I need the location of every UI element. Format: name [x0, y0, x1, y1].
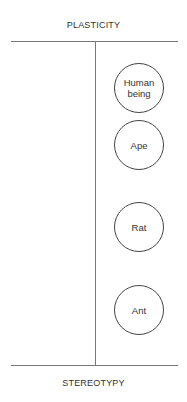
node-label-line1: Human [124, 77, 155, 88]
top-label-plasticity: PLASTICITY [0, 20, 187, 30]
node-human-being: Humanbeing [114, 63, 164, 113]
node-rat: Rat [114, 202, 164, 252]
node-label: Rat [132, 222, 147, 233]
node-ape: Ape [114, 120, 164, 170]
node-label: Ape [131, 140, 148, 151]
node-label: Ant [132, 305, 146, 316]
bottom-axis-line [11, 365, 178, 366]
bottom-label-stereotypy: STEREOTYPY [0, 378, 187, 388]
node-ant: Ant [114, 285, 164, 335]
node-label-line2: being [127, 88, 150, 99]
vertical-divider [95, 41, 96, 365]
